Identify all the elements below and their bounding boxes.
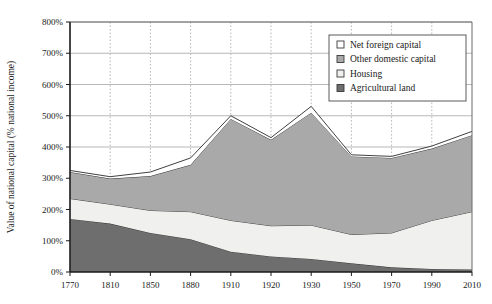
x-tick-label: 1770 [61,280,80,290]
y-tick-label: 300% [42,173,64,183]
x-tick-label: 1920 [262,280,281,290]
y-tick-label: 100% [42,236,64,246]
legend-label: Other domestic capital [350,54,436,64]
chart-svg: 1770181018501880191019201930195019701990… [0,0,492,304]
legend-label: Agricultural land [350,83,415,93]
x-tick-label: 2010 [463,280,482,290]
y-tick-label: 600% [42,80,64,90]
x-tick-label: 1950 [342,280,361,290]
legend-swatch [337,85,344,92]
y-tick-label: 500% [42,111,64,121]
x-tick-label: 1990 [423,280,442,290]
y-tick-label: 0% [51,267,64,277]
x-tick-label: 1930 [302,280,321,290]
y-axis-title: Value of national capital (% national in… [6,61,17,234]
x-tick-label: 1880 [182,280,201,290]
legend-swatch [337,41,344,48]
legend-label: Net foreign capital [350,40,422,50]
legend-swatch [337,70,344,77]
chart-legend: Net foreign capitalOther domestic capita… [329,35,466,101]
y-tick-label: 700% [42,48,64,58]
x-tick-label: 1850 [141,280,160,290]
legend-swatch [337,56,344,63]
x-tick-label: 1910 [222,280,241,290]
chart-figure: 1770181018501880191019201930195019701990… [0,0,492,304]
y-tick-label: 200% [42,205,64,215]
legend-label: Housing [350,69,382,79]
x-tick-label: 1810 [101,280,120,290]
y-tick-label: 800% [42,17,64,27]
y-axis-title-text: Value of national capital (% national in… [6,61,17,234]
y-axis-tick-labels: 0%100%200%300%400%500%600%700%800% [42,17,64,277]
x-tick-label: 1970 [383,280,402,290]
y-tick-label: 400% [42,142,64,152]
